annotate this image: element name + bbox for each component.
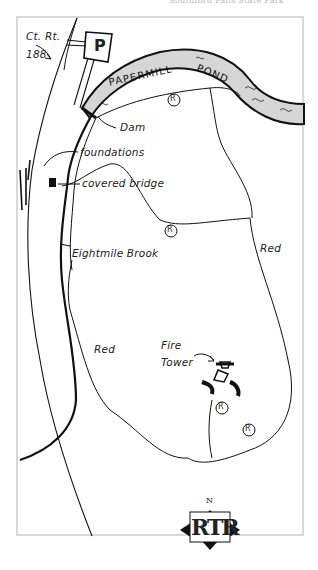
fire-tower bbox=[202, 362, 239, 396]
road-label-number: 188 bbox=[26, 48, 47, 60]
brook-label: Eightmile Brook bbox=[72, 247, 158, 259]
road-edge-east bbox=[64, 18, 77, 70]
pond-label-sep: - bbox=[176, 62, 181, 73]
trail-marker-4: R bbox=[245, 424, 251, 433]
road-label-name: Ct. Rt. bbox=[26, 30, 60, 42]
dam-arrow bbox=[98, 116, 116, 128]
trail-map bbox=[0, 0, 318, 570]
trail-east-upper bbox=[210, 88, 252, 218]
trail-label-red-east: Red bbox=[260, 242, 281, 254]
parking-label[interactable]: P bbox=[94, 36, 106, 55]
covered-bridge-label: covered bridge bbox=[82, 177, 164, 189]
covered-bridge bbox=[49, 178, 56, 187]
fire-tower-label-2: Tower bbox=[161, 356, 193, 368]
trail-tower-spur bbox=[209, 400, 212, 458]
foundations-label: foundations bbox=[80, 146, 144, 158]
trail-marker-3: R bbox=[218, 402, 224, 411]
fire-tower-label-1: Fire bbox=[161, 339, 182, 351]
trail-middle bbox=[62, 164, 250, 224]
compass-logo: RTR bbox=[191, 514, 238, 540]
trail-marker-1: R bbox=[170, 94, 176, 103]
dam-label: Dam bbox=[120, 121, 145, 133]
trail-label-red-west: Red bbox=[94, 343, 115, 355]
trail-marker-2: R bbox=[167, 225, 173, 234]
trail-north bbox=[96, 88, 240, 118]
papermill-pond bbox=[82, 50, 304, 125]
compass-north-label: N bbox=[206, 496, 213, 505]
road-edge-west bbox=[28, 18, 92, 536]
